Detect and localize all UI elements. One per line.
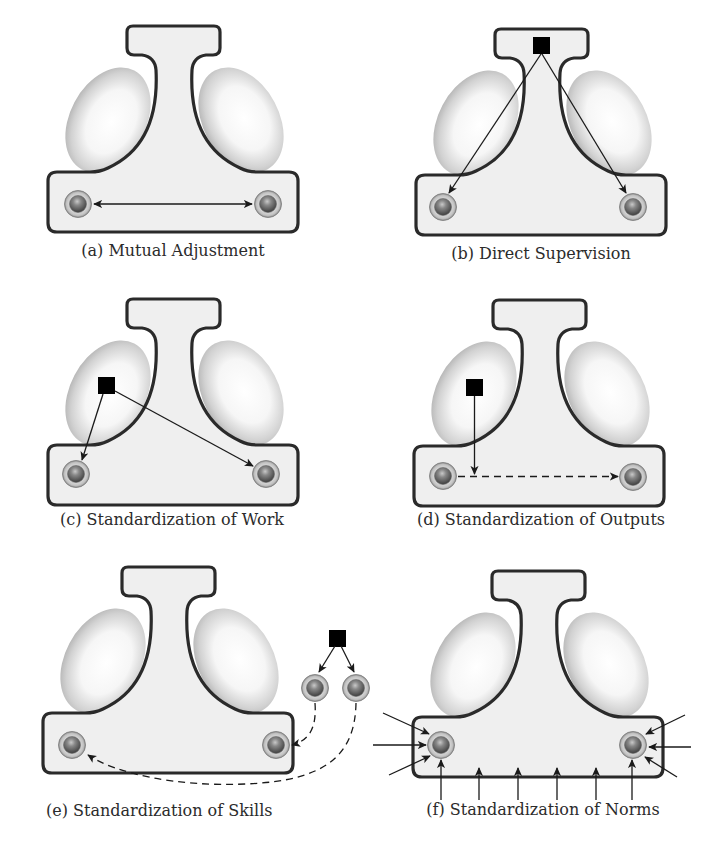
coordination-mechanisms-diagram: (a) Mutual Adjustment (b) Direct Supervi… [0,0,722,859]
operator-node-left [430,194,457,221]
panel-direct-supervision: (b) Direct Supervision [416,29,669,263]
caption-b: (b) Direct Supervision [451,244,630,263]
coordinator-square [329,630,346,647]
skills-dashed-arrow-right [292,703,315,745]
operator-node-left [65,191,92,218]
operator-node-left [428,732,455,759]
operator-node-right [620,464,647,491]
training-arrow-left [319,646,335,672]
panel-standardization-of-work: (c) Standardization of Work [48,299,301,529]
panel-mutual-adjustment: (a) Mutual Adjustment [48,26,301,260]
operator-node-right [253,461,280,488]
operator-node-left [59,732,86,759]
operator-node-right [263,732,290,759]
operator-node-right [255,191,282,218]
caption-c: (c) Standardization of Work [60,510,284,529]
operator-node-right [620,732,647,759]
operator-node-right [620,194,647,221]
trainee-node-2 [343,675,370,702]
operator-node-left [63,461,90,488]
panel-standardization-of-outputs: (d) Standardization of Outputs [414,300,667,529]
trainee-node-1 [302,675,329,702]
coordinator-square [466,379,483,396]
caption-a: (a) Mutual Adjustment [81,241,265,260]
caption-f: (f) Standardization of Norms [426,800,659,819]
panel-standardization-of-skills: (e) Standardization of Skills [43,567,370,820]
coordinator-square [533,37,550,54]
training-arrow-right [341,646,354,672]
caption-e: (e) Standardization of Skills [46,801,272,820]
panel-standardization-of-norms: (f) Standardization of Norms [373,571,691,819]
coordinator-square [98,377,115,394]
caption-d: (d) Standardization of Outputs [417,510,665,529]
operator-node-left [430,463,457,490]
